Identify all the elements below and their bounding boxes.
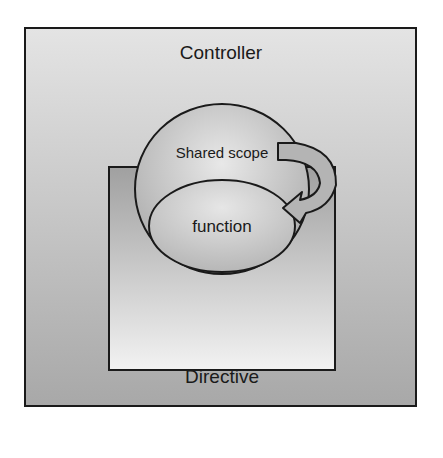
- controller-label: Controller: [180, 42, 263, 63]
- function-label: function: [192, 217, 252, 236]
- directive-label-text: Directive: [185, 366, 259, 387]
- diagram-canvas: Controller Directive Shared scope functi…: [0, 0, 443, 458]
- shared-scope-label: Shared scope: [176, 144, 269, 161]
